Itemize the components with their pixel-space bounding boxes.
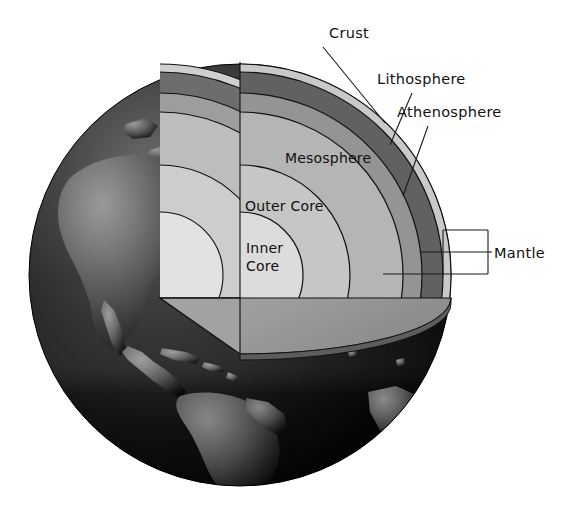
label-athenosphere: Athenosphere xyxy=(397,104,502,120)
earth-interior-diagram: Crust Lithosphere Athenosphere Mesospher… xyxy=(0,0,571,531)
label-crust: Crust xyxy=(329,25,369,41)
label-inner-core-line2: Core xyxy=(246,258,279,274)
diagram-canvas: Crust Lithosphere Athenosphere Mesospher… xyxy=(0,0,571,531)
label-mantle: Mantle xyxy=(494,245,545,261)
label-mesosphere: Mesosphere xyxy=(285,150,371,166)
label-outer-core: Outer Core xyxy=(245,198,324,214)
label-inner-core-line1: Inner xyxy=(246,240,283,256)
label-lithosphere: Lithosphere xyxy=(377,71,466,87)
